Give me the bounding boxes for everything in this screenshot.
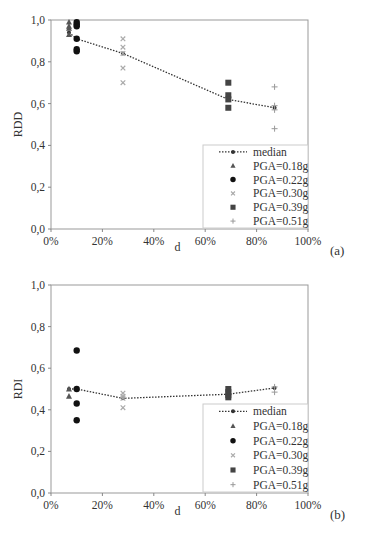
triangle-marker bbox=[66, 393, 72, 399]
series-median bbox=[67, 386, 277, 400]
y-tick-label: 1,0 bbox=[31, 279, 46, 292]
y-axis-label: RDI bbox=[11, 379, 25, 400]
median-dot bbox=[231, 409, 235, 413]
series-pga-0-39g bbox=[225, 386, 231, 400]
x-axis-label: d bbox=[175, 504, 181, 518]
x-marker bbox=[121, 405, 126, 410]
panel-label: (b) bbox=[330, 507, 345, 522]
x-tick-label: 80% bbox=[246, 499, 268, 511]
circle-marker bbox=[74, 386, 80, 392]
legend-label: PGA=0.22g bbox=[253, 435, 309, 448]
circle-marker bbox=[74, 400, 80, 406]
circle-marker bbox=[230, 438, 235, 443]
x-tick-label: 100% bbox=[295, 499, 322, 511]
circle-marker bbox=[74, 347, 80, 353]
series-pga-0-51g bbox=[272, 384, 278, 395]
y-tick-label: 0,4 bbox=[31, 404, 46, 417]
legend-label: PGA=0.18g bbox=[253, 420, 309, 433]
series-pga-0-30g bbox=[121, 391, 126, 410]
legend-label: PGA=0.39g bbox=[253, 464, 309, 477]
square-marker bbox=[225, 394, 231, 400]
x-tick-label: 20% bbox=[92, 499, 114, 511]
chart-b-canvas: 0,00,20,40,60,81,00%20%40%60%80%100%dRDI… bbox=[0, 0, 365, 539]
legend-label: median bbox=[253, 405, 287, 417]
chart-b: 0,00,20,40,60,81,00%20%40%60%80%100%dRDI… bbox=[0, 0, 365, 539]
plus-marker bbox=[272, 389, 278, 395]
y-tick-label: 0,6 bbox=[31, 362, 46, 375]
y-tick-label: 0,8 bbox=[31, 321, 46, 334]
x-tick-label: 60% bbox=[195, 499, 217, 511]
square-marker bbox=[230, 467, 235, 472]
y-tick-label: 0,2 bbox=[31, 445, 46, 458]
median-line bbox=[69, 388, 275, 398]
legend: medianPGA=0.18gPGA=0.22gPGA=0.30gPGA=0.3… bbox=[203, 404, 309, 492]
legend-label: PGA=0.30g bbox=[253, 449, 309, 462]
x-tick-label: 40% bbox=[143, 499, 165, 511]
x-tick-label: 0% bbox=[43, 499, 59, 511]
series-pga-0-18g bbox=[66, 386, 72, 399]
legend-label: PGA=0.51g bbox=[253, 479, 309, 492]
triangle-marker bbox=[66, 386, 72, 392]
plus-marker bbox=[272, 384, 278, 390]
circle-marker bbox=[74, 417, 80, 423]
series-pga-0-22g bbox=[74, 347, 80, 423]
